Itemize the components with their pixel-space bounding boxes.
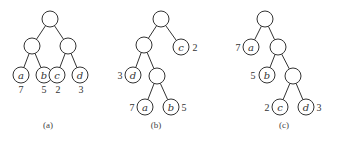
node-label: d xyxy=(303,102,309,113)
tree-edge xyxy=(36,26,45,40)
tree-edge xyxy=(160,83,167,99)
tree-edge xyxy=(268,26,274,39)
weight-label: 2 xyxy=(265,102,270,113)
internal-node xyxy=(257,11,273,27)
tree-edge xyxy=(60,53,65,67)
weight-label: 5 xyxy=(42,84,47,95)
weight-label: 7 xyxy=(19,84,24,95)
tree-a: a7b5c2d3(a) xyxy=(13,11,88,130)
node-label: d xyxy=(130,70,136,81)
node-label: c xyxy=(178,42,184,53)
tree-edge xyxy=(148,26,156,39)
node-label: a xyxy=(248,42,254,53)
weight-label: 2 xyxy=(193,42,198,53)
weight-label: 5 xyxy=(182,102,187,113)
weight-label: 5 xyxy=(251,70,256,81)
internal-node xyxy=(42,11,58,27)
tree-edge xyxy=(270,54,275,67)
tree-edge xyxy=(282,54,290,69)
figure-caption: (a) xyxy=(43,120,53,130)
tree-edge xyxy=(147,52,154,68)
node-label: c xyxy=(277,102,283,113)
tree-edge xyxy=(296,83,303,99)
tree-edge xyxy=(71,53,77,67)
internal-node xyxy=(285,68,301,84)
internal-node xyxy=(149,68,165,84)
weight-label: 7 xyxy=(236,42,241,53)
node-label: d xyxy=(77,70,83,81)
node-label: a xyxy=(18,70,24,81)
tree-edge xyxy=(54,26,63,40)
tree-edge xyxy=(35,53,41,67)
internal-node xyxy=(60,38,76,54)
weight-label: 2 xyxy=(56,84,61,95)
figure-caption: (c) xyxy=(279,120,289,130)
tree-b: c2d3a7b5(b) xyxy=(118,11,198,130)
node-label: b xyxy=(41,70,47,81)
internal-node xyxy=(270,39,286,55)
tree-c: a7b5c2d3(c) xyxy=(236,11,322,130)
tree-edge xyxy=(24,53,29,67)
weight-label: 3 xyxy=(79,84,84,95)
node-label: b xyxy=(168,102,174,113)
node-label: a xyxy=(142,102,148,113)
weight-label: 3 xyxy=(118,70,123,81)
tree-edge xyxy=(166,26,177,41)
tree-edge xyxy=(255,26,262,40)
figure-caption: (b) xyxy=(151,120,162,130)
internal-node xyxy=(136,37,152,53)
tree-edge xyxy=(283,83,290,99)
tree-edge xyxy=(136,53,141,68)
node-label: c xyxy=(54,70,60,81)
weight-label: 3 xyxy=(317,102,322,113)
internal-node xyxy=(24,38,40,54)
weight-label: 7 xyxy=(130,102,135,113)
node-label: b xyxy=(264,70,270,81)
internal-node xyxy=(153,11,169,27)
huffman-trees-figure: a7b5c2d3(a) c2d3a7b5(b) a7b5c2d3(c) xyxy=(0,0,338,141)
tree-edge xyxy=(148,83,154,99)
